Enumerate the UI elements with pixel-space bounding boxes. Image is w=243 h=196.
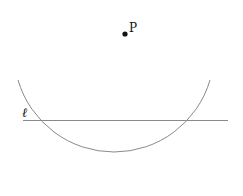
point-p-label: P [129,21,137,35]
point-p [122,31,127,36]
background [0,0,243,196]
line-l-label: ℓ [22,105,28,120]
geometry-figure: P ℓ [0,0,243,196]
